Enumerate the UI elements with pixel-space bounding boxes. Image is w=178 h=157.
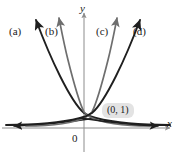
graph-canvas — [0, 0, 178, 157]
curve-label-c: (c) — [96, 26, 108, 37]
curve-label-a: (a) — [9, 26, 21, 37]
exponential-curves-figure: (a) (b) (c) (d) y x 0 (0, 1) — [0, 0, 178, 157]
origin-label: 0 — [72, 133, 78, 144]
curve-label-d: (d) — [133, 26, 146, 37]
y-axis-label: y — [80, 3, 85, 14]
curve-label-b: (b) — [45, 26, 58, 37]
point-callout-0-1: (0, 1) — [102, 103, 134, 118]
x-axis-label: x — [167, 118, 172, 129]
